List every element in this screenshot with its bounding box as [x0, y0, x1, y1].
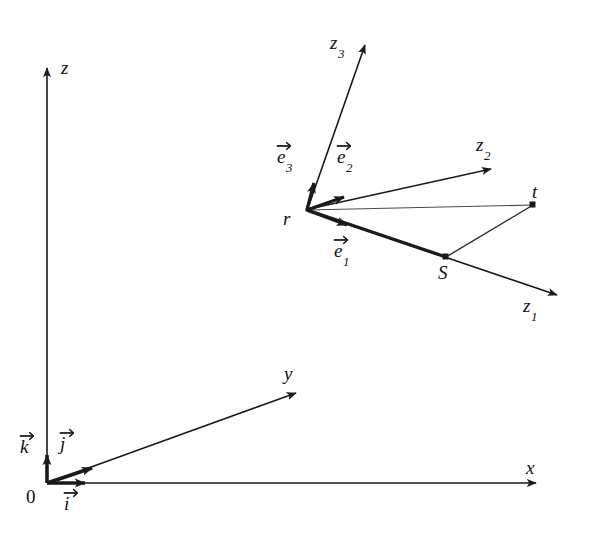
z3-axis-label: z3 — [330, 33, 344, 57]
z1-label-subscript: 1 — [531, 309, 537, 324]
point-t-label: t — [532, 182, 537, 201]
z1-axis-label: z1 — [523, 296, 537, 320]
local-frame-vectors-group — [307, 183, 347, 225]
j-vector-arrow — [47, 468, 92, 483]
vector-diagram-svg — [0, 0, 594, 536]
y-axis-label: y — [284, 364, 292, 383]
e2-label-subscript: 2 — [346, 160, 352, 175]
origin-label: 0 — [26, 487, 36, 506]
e2-vector-arrow — [307, 197, 344, 210]
z1-label-text: z — [523, 295, 530, 316]
e2-vector-label: e2 — [337, 147, 352, 171]
i-label-text: i — [64, 493, 69, 514]
e1-label-text: e — [334, 240, 342, 261]
e3-label-subscript: 3 — [286, 160, 292, 175]
e3-vector-label: e3 — [277, 147, 292, 171]
e3-vector-arrow — [307, 183, 314, 210]
x-axis-label: x — [526, 458, 534, 477]
point-s-label: S — [438, 263, 448, 282]
r-to-t-line — [307, 205, 533, 210]
point-r-label: r — [283, 209, 290, 228]
j-vector-label: j — [60, 434, 65, 453]
e1-label-subscript: 1 — [343, 254, 349, 269]
z2-axis-line — [309, 169, 491, 209]
e2-label-text: e — [337, 146, 345, 167]
e1-vector-label: e1 — [334, 241, 349, 265]
z3-axis-line — [309, 45, 365, 205]
i-vector-label: i — [64, 494, 69, 513]
z3-label-text: z — [330, 32, 337, 53]
basis-vectors-group — [47, 455, 92, 483]
e3-label-text: e — [277, 146, 285, 167]
z2-label-subscript: 2 — [484, 148, 490, 163]
global-axes-group — [47, 68, 536, 483]
point-marker-t — [530, 202, 536, 208]
e1-vector-arrow — [307, 210, 347, 225]
z2-label-text: z — [476, 134, 483, 155]
z2-axis-label: z2 — [476, 135, 490, 159]
figure-canvas: z y x 0 k j — [0, 0, 594, 536]
j-label-text: j — [60, 433, 65, 454]
z-axis-label: z — [61, 58, 68, 77]
point-marker-s — [443, 254, 449, 260]
s-to-t-line — [446, 205, 533, 257]
z3-label-subscript: 3 — [338, 46, 344, 61]
k-vector-label: k — [20, 437, 28, 456]
k-label-text: k — [20, 436, 28, 457]
